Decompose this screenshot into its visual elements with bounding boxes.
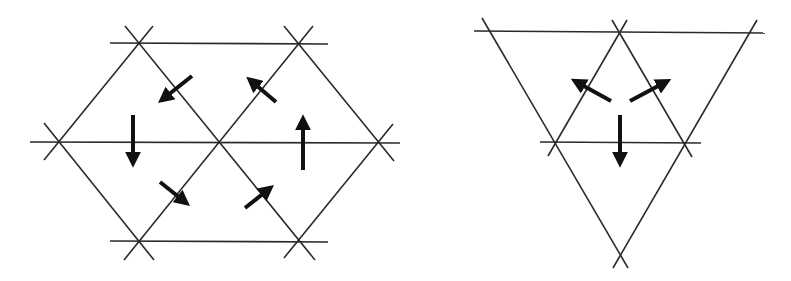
- arrow-up-right-icon: [245, 193, 264, 208]
- arrow-down-left-icon: [168, 76, 192, 95]
- arrow-down-right-icon: [160, 182, 180, 198]
- hexagon-lattice-panel: [30, 26, 400, 260]
- triangle-lattice-panel: [474, 18, 765, 268]
- spin-arrows-right: [582, 85, 660, 155]
- arrow-up-left-icon: [582, 85, 611, 101]
- spin-lattice-figure: [0, 0, 791, 281]
